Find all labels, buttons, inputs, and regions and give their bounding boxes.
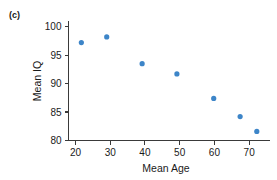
data-point	[174, 71, 179, 76]
figure-panel: (c) 80859095100 203040506070 Mean Age Me…	[0, 0, 277, 180]
x-tick-label: 30	[105, 147, 117, 158]
data-point	[254, 129, 259, 134]
x-tick-label: 70	[244, 147, 256, 158]
x-tick-label: 60	[209, 147, 221, 158]
y-tick-label: 95	[50, 50, 62, 61]
y-tick-label: 90	[50, 78, 62, 89]
x-axis-ticks: 203040506070	[70, 141, 255, 158]
y-tick-label: 85	[50, 107, 62, 118]
x-axis-title: Mean Age	[142, 162, 189, 174]
data-points-layer	[79, 34, 260, 134]
data-point	[79, 40, 84, 45]
data-point	[238, 114, 243, 119]
y-axis-title: Mean IQ	[31, 61, 43, 101]
y-tick-label: 80	[50, 135, 62, 146]
x-tick-label: 40	[139, 147, 151, 158]
y-tick-label: 100	[45, 21, 62, 32]
x-tick-label: 20	[70, 147, 82, 158]
x-tick-label: 50	[174, 147, 186, 158]
scatter-plot: 80859095100 203040506070 Mean Age Mean I…	[0, 0, 277, 180]
data-point	[211, 96, 216, 101]
data-point	[140, 61, 145, 66]
data-point	[104, 34, 109, 39]
y-axis-ticks: 80859095100	[45, 21, 69, 146]
